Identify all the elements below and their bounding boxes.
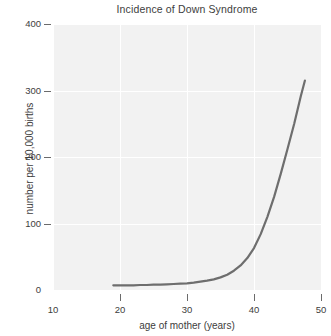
- y-axis-label: number per 10,000 births: [24, 69, 35, 249]
- y-tick-mark: [44, 91, 51, 92]
- y-tick-label: 0: [5, 284, 41, 295]
- x-tick-label: 30: [172, 304, 202, 315]
- data-series-canvas: [53, 24, 321, 290]
- plot-area: [53, 24, 321, 290]
- y-tick-mark: [44, 24, 51, 25]
- x-tick-mark: [187, 294, 188, 301]
- y-tick-label: 400: [5, 18, 41, 29]
- chart-title: Incidence of Down Syndrome: [53, 3, 321, 15]
- y-tick-mark: [44, 224, 51, 225]
- x-tick-mark: [120, 294, 121, 301]
- x-tick-mark: [254, 294, 255, 301]
- x-tick-label: 50: [306, 304, 331, 315]
- x-tick-label: 10: [38, 304, 68, 315]
- x-tick-label: 40: [239, 304, 269, 315]
- y-tick-mark: [44, 157, 51, 158]
- series-line-0: [113, 81, 305, 286]
- x-tick-label: 20: [105, 304, 135, 315]
- x-axis-label: age of mother (years): [53, 320, 321, 331]
- x-tick-mark: [321, 294, 322, 301]
